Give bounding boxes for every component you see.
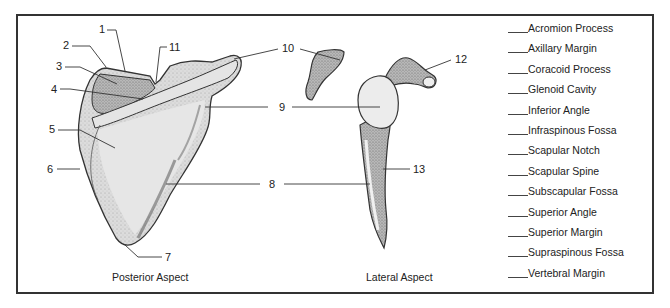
word-bank-item: Inferior Angle [508, 102, 624, 122]
answer-blank[interactable] [508, 224, 528, 237]
callout-3: 3 [56, 61, 62, 72]
callout-8: 8 [269, 179, 275, 190]
term-label: Superior Angle [528, 204, 597, 224]
term-label: Glenoid Cavity [528, 81, 596, 101]
term-label: Vertebral Margin [528, 265, 605, 285]
word-bank-item: Subscapular Fossa [508, 183, 624, 203]
answer-blank[interactable] [508, 20, 528, 33]
word-bank-item: Glenoid Cavity [508, 81, 624, 101]
caption-posterior-aspect: Posterior Aspect [112, 271, 188, 283]
callout-9: 9 [279, 102, 285, 113]
word-bank-item: Superior Margin [508, 224, 624, 244]
callout-12: 12 [455, 54, 467, 65]
term-label: Coracoid Process [528, 61, 611, 81]
answer-blank[interactable] [508, 204, 528, 217]
term-label: Axillary Margin [528, 40, 597, 60]
answer-blank[interactable] [508, 102, 528, 115]
word-bank-item: Infraspinous Fossa [508, 122, 624, 142]
word-bank-item: Acromion Process [508, 20, 624, 40]
term-label: Superior Margin [528, 224, 603, 244]
answer-blank[interactable] [508, 61, 528, 74]
answer-blank[interactable] [508, 40, 528, 53]
term-label: Acromion Process [528, 20, 613, 40]
word-bank: Acromion Process Axillary Margin Coracoi… [508, 20, 624, 285]
callout-2: 2 [63, 40, 69, 51]
word-bank-item: Supraspinous Fossa [508, 244, 624, 264]
answer-blank[interactable] [508, 81, 528, 94]
callout-10: 10 [282, 43, 294, 54]
word-bank-item: Coracoid Process [508, 61, 624, 81]
word-bank-item: Scapular Spine [508, 163, 624, 183]
word-bank-item: Superior Angle [508, 204, 624, 224]
word-bank-item: Scapular Notch [508, 142, 624, 162]
term-label: Infraspinous Fossa [528, 122, 617, 142]
answer-blank[interactable] [508, 163, 528, 176]
answer-blank[interactable] [508, 265, 528, 278]
callout-4: 4 [51, 84, 57, 95]
term-label: Scapular Notch [528, 142, 600, 162]
answer-blank[interactable] [508, 244, 528, 257]
callout-13: 13 [413, 164, 425, 175]
posterior-scapula [78, 56, 241, 246]
term-label: Subscapular Fossa [528, 183, 618, 203]
callout-6: 6 [47, 164, 53, 175]
lateral-scapula [306, 50, 436, 248]
word-bank-item: Vertebral Margin [508, 265, 624, 285]
caption-lateral-aspect: Lateral Aspect [366, 271, 433, 283]
term-label: Inferior Angle [528, 102, 590, 122]
word-bank-item: Axillary Margin [508, 40, 624, 60]
answer-blank[interactable] [508, 183, 528, 196]
term-label: Scapular Spine [528, 163, 599, 183]
callout-7: 7 [165, 252, 171, 263]
answer-blank[interactable] [508, 122, 528, 135]
term-label: Supraspinous Fossa [528, 244, 624, 264]
callout-1: 1 [99, 24, 105, 35]
answer-blank[interactable] [508, 142, 528, 155]
callout-11: 11 [169, 42, 180, 53]
callout-5: 5 [49, 124, 55, 135]
